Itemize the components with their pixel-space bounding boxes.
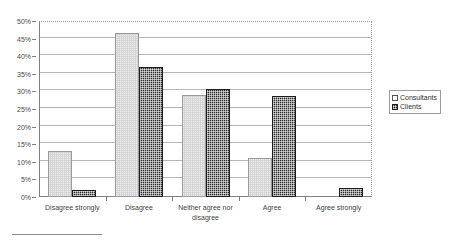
plot-area bbox=[39, 21, 372, 197]
x-axis-category-label: Agree strongly bbox=[308, 203, 370, 213]
legend-label: Consultants bbox=[400, 94, 437, 102]
x-axis-ticks bbox=[39, 197, 372, 202]
x-axis-tick-mark bbox=[106, 197, 107, 201]
gridline bbox=[40, 37, 371, 38]
x-axis-tick-mark bbox=[305, 197, 306, 201]
y-axis-tick-mark bbox=[32, 56, 36, 57]
y-axis-tick-label: 35% bbox=[17, 70, 31, 77]
y-axis-tick-mark bbox=[32, 109, 36, 110]
y-axis-tick-label: 5% bbox=[21, 176, 31, 183]
gridline bbox=[40, 72, 371, 73]
x-axis-tick-mark bbox=[239, 197, 240, 201]
x-axis-category-label: Neither agree nor disagree bbox=[175, 203, 237, 222]
legend-item-consultants[interactable]: Consultants bbox=[392, 93, 437, 102]
y-axis-tick-label: 45% bbox=[17, 35, 31, 42]
x-axis-labels: Disagree stronglyDisagreeNeither agree n… bbox=[39, 203, 372, 245]
gridline bbox=[40, 160, 371, 161]
y-axis-tick-mark bbox=[32, 162, 36, 163]
y-axis-tick-mark bbox=[32, 91, 36, 92]
y-axis-tick-label: 50% bbox=[17, 18, 31, 25]
legend-label: Clients bbox=[400, 103, 421, 111]
legend-item-clients[interactable]: Clients bbox=[392, 102, 437, 111]
y-axis-tick-label: 10% bbox=[17, 158, 31, 165]
y-axis-tick-label: 25% bbox=[17, 106, 31, 113]
y-axis-tick-mark bbox=[32, 21, 36, 22]
footnote-rule bbox=[12, 234, 102, 235]
gridline bbox=[40, 125, 371, 126]
legend-swatch-clients-icon bbox=[392, 104, 398, 110]
y-axis-tick-label: 15% bbox=[17, 141, 31, 148]
gridlines bbox=[40, 22, 371, 196]
gridline bbox=[40, 177, 371, 178]
y-axis-tick-mark bbox=[32, 74, 36, 75]
gridline bbox=[40, 142, 371, 143]
y-axis-tick-label: 0% bbox=[21, 194, 31, 201]
y-axis-tick-mark bbox=[32, 179, 36, 180]
legend-swatch-consultants-icon bbox=[392, 95, 398, 101]
y-axis-tick-mark bbox=[32, 39, 36, 40]
y-axis-tick-label: 40% bbox=[17, 53, 31, 60]
gridline bbox=[40, 54, 371, 55]
x-axis-tick-mark bbox=[172, 197, 173, 201]
x-axis-category-label: Disagree bbox=[108, 203, 170, 213]
y-axis-tick-mark bbox=[32, 144, 36, 145]
y-axis-tick-label: 30% bbox=[17, 88, 31, 95]
gridline bbox=[40, 89, 371, 90]
bar-chart: 0%5%10%15%20%25%30%35%40%45%50% Disagree… bbox=[0, 0, 456, 248]
y-axis: 0%5%10%15%20%25%30%35%40%45%50% bbox=[0, 21, 36, 198]
chart-legend: ConsultantsClients bbox=[389, 90, 441, 114]
cut-off-chart-title bbox=[0, 0, 456, 9]
y-axis-tick-mark bbox=[32, 127, 36, 128]
y-axis-tick-mark bbox=[32, 197, 36, 198]
y-axis-tick-label: 20% bbox=[17, 123, 31, 130]
gridline bbox=[40, 107, 371, 108]
x-axis-category-label: Disagree strongly bbox=[41, 203, 103, 213]
x-axis-category-label: Agree bbox=[241, 203, 303, 213]
